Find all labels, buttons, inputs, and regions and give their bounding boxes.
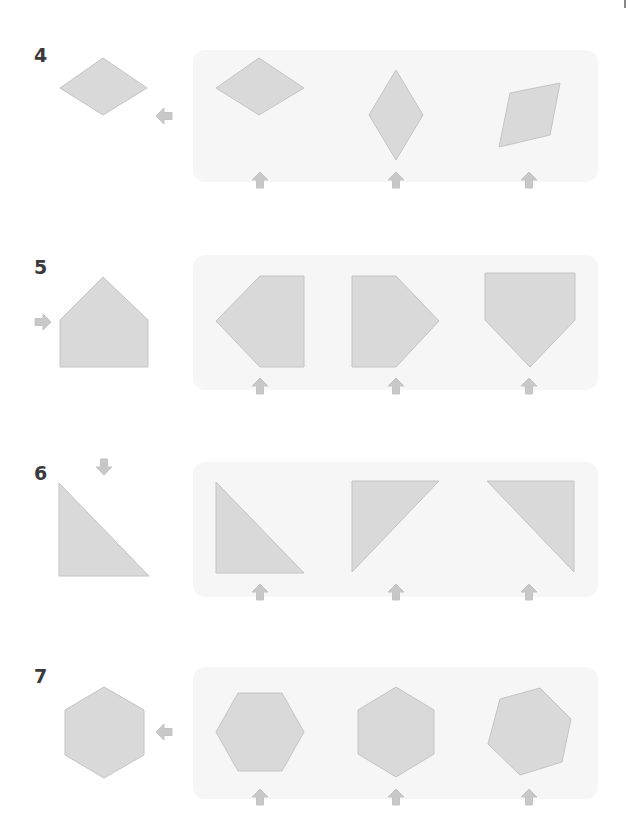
option-right-triangle-bottom-left[interactable]: [216, 482, 304, 573]
reference-right-triangle: [59, 483, 149, 576]
arrow-up-icon: [252, 378, 268, 394]
option-pentagon-point-right[interactable]: [352, 276, 439, 367]
arrow-up-icon: [521, 584, 537, 600]
arrow-up-icon: [388, 172, 404, 188]
arrow-right-icon: [35, 314, 51, 330]
option-pentagon-point-left[interactable]: [216, 276, 304, 367]
arrow-up-icon: [521, 378, 537, 394]
option-pentagon-point-down[interactable]: [485, 273, 575, 367]
option-rhombus-tilted[interactable]: [499, 83, 560, 147]
arrow-left-icon: [156, 108, 172, 124]
option-hexagon-rotated[interactable]: [488, 688, 571, 775]
reference-rhombus-wide: [60, 58, 147, 115]
arrow-up-icon: [521, 789, 537, 805]
arrow-up-icon: [388, 789, 404, 805]
reference-pentagon-house: [60, 277, 148, 367]
option-right-triangle-top-right[interactable]: [487, 481, 574, 572]
arrow-up-icon: [252, 789, 268, 805]
option-rhombus-tall[interactable]: [369, 70, 423, 160]
shapes-layer: [0, 0, 627, 840]
arrow-left-icon: [156, 724, 172, 740]
arrow-up-icon: [521, 172, 537, 188]
option-rhombus-wide[interactable]: [216, 58, 304, 115]
arrow-up-icon: [388, 378, 404, 394]
arrow-up-icon: [252, 584, 268, 600]
arrow-up-icon: [252, 172, 268, 188]
option-hexagon-pointy-top[interactable]: [358, 687, 434, 777]
arrow-up-icon: [388, 584, 404, 600]
option-right-triangle-top-left[interactable]: [352, 481, 439, 572]
option-hexagon-flat-top[interactable]: [216, 693, 304, 771]
reference-hexagon-pointy-top: [65, 687, 144, 778]
arrow-down-icon: [96, 459, 112, 475]
